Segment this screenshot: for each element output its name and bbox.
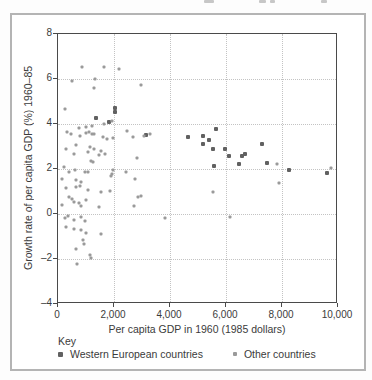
data-point-other xyxy=(125,129,128,132)
x-axis-tick xyxy=(169,303,170,307)
data-point-other xyxy=(100,233,103,236)
data-point-other xyxy=(118,67,121,70)
y-gridline xyxy=(58,259,336,260)
data-point-other xyxy=(61,204,64,207)
data-point-other xyxy=(79,184,82,187)
data-point-western-european xyxy=(265,161,269,165)
data-point-other xyxy=(79,134,82,137)
data-point-other xyxy=(64,107,67,110)
data-point-other xyxy=(75,178,78,181)
data-point-other xyxy=(90,256,93,259)
data-point-other xyxy=(68,171,71,174)
data-point-other xyxy=(65,148,68,151)
data-point-other xyxy=(81,239,84,242)
y-axis-tick xyxy=(53,78,57,79)
data-point-other xyxy=(87,170,90,173)
data-point-other xyxy=(110,120,113,123)
data-point-other xyxy=(98,205,101,208)
data-point-other xyxy=(91,161,94,164)
data-point-other xyxy=(76,263,79,266)
y-axis-tick xyxy=(53,258,57,259)
data-point-other xyxy=(65,186,68,189)
x-axis-tick xyxy=(281,303,282,307)
data-point-other xyxy=(75,248,78,251)
x-axis-tick xyxy=(113,303,114,307)
y-gridline xyxy=(58,214,336,215)
data-point-other xyxy=(139,83,142,86)
data-point-other xyxy=(86,188,89,191)
y-tick-label: 4 xyxy=(24,117,52,129)
x-tick-label: 2,000 xyxy=(83,309,143,321)
data-point-other xyxy=(70,132,73,135)
legend-title: Key xyxy=(58,335,76,347)
data-point-other xyxy=(105,138,108,141)
data-point-other xyxy=(148,133,151,136)
data-point-other xyxy=(89,145,92,148)
data-point-western-european xyxy=(212,164,216,168)
y-gridline xyxy=(58,169,336,170)
data-point-other xyxy=(71,80,74,83)
data-point-other xyxy=(111,136,114,139)
data-point-other xyxy=(73,152,76,155)
data-point-other xyxy=(72,227,75,230)
y-axis-tick xyxy=(53,213,57,214)
data-point-western-european xyxy=(237,162,241,166)
x-tick-label: 6,000 xyxy=(195,309,255,321)
x-axis-title: Per capita GDP in 1960 (1985 dollars) xyxy=(57,323,337,335)
legend-label-other: Other countries xyxy=(244,348,316,360)
data-point-other xyxy=(85,125,88,128)
scatter-plot-area xyxy=(57,33,337,303)
data-point-other xyxy=(330,166,333,169)
data-point-other xyxy=(65,130,68,133)
data-point-other xyxy=(103,123,106,126)
data-point-western-european xyxy=(207,138,211,142)
data-point-western-european xyxy=(325,171,329,175)
data-point-other xyxy=(84,220,87,223)
data-point-other xyxy=(104,152,107,155)
data-point-other xyxy=(103,65,106,68)
data-point-other xyxy=(98,154,101,157)
legend-label-western-european: Western European countries xyxy=(70,348,203,360)
data-point-other xyxy=(80,215,83,218)
data-point-western-european xyxy=(113,106,117,110)
y-tick-label: –4 xyxy=(24,297,52,309)
legend-item-other: Other countries xyxy=(233,348,316,360)
data-point-other xyxy=(78,126,81,129)
legend-item-western-european: Western European countries xyxy=(58,348,203,360)
data-point-other xyxy=(61,177,64,180)
x-tick-label: 8,000 xyxy=(251,309,311,321)
data-point-other xyxy=(73,200,76,203)
x-axis-tick xyxy=(337,303,338,307)
data-point-other xyxy=(139,194,142,197)
data-point-other xyxy=(85,199,88,202)
data-point-other xyxy=(100,190,103,193)
x-tick-label: 10,000 xyxy=(307,309,367,321)
data-point-other xyxy=(134,177,137,180)
x-tick-label: 4,000 xyxy=(139,309,199,321)
data-point-western-european xyxy=(260,142,264,146)
data-point-other xyxy=(74,168,77,171)
y-axis-tick xyxy=(53,168,57,169)
y-tick-label: 8 xyxy=(24,27,52,39)
y-tick-label: –2 xyxy=(24,252,52,264)
data-point-western-european xyxy=(201,134,205,138)
legend: Western European countries Other countri… xyxy=(58,348,358,360)
data-point-other xyxy=(65,225,68,228)
data-point-other xyxy=(164,216,167,219)
x-tick-label: 0 xyxy=(27,309,87,321)
data-point-other xyxy=(133,205,136,208)
data-point-western-european xyxy=(227,154,231,158)
data-point-other xyxy=(211,190,214,193)
data-point-other xyxy=(81,66,84,69)
data-point-other xyxy=(228,215,231,218)
x-gridline xyxy=(170,34,171,302)
x-gridline xyxy=(114,34,115,302)
x-axis-tick xyxy=(57,303,58,307)
western-european-marker-icon xyxy=(58,352,63,357)
data-point-western-european xyxy=(243,152,247,156)
data-point-other xyxy=(75,143,78,146)
data-point-other xyxy=(136,157,139,160)
data-point-other xyxy=(80,204,83,207)
data-point-other xyxy=(94,78,97,81)
y-tick-label: 6 xyxy=(24,72,52,84)
